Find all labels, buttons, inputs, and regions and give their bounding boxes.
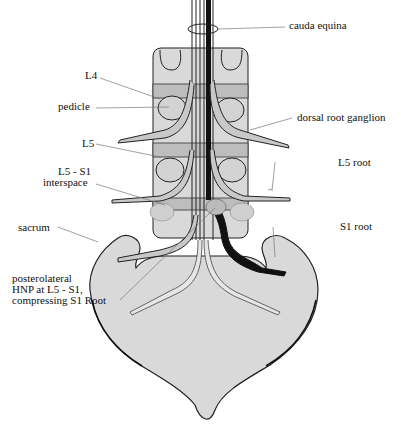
label-l5: L5 [82, 138, 94, 149]
label-dorsal-root-ganglion: dorsal root ganglion [297, 112, 386, 123]
label-sacrum: sacrum [18, 222, 50, 233]
label-interspace: interspace [43, 177, 88, 188]
pedicle-left-l5 [156, 158, 184, 182]
label-l5-root: L5 root [338, 157, 371, 168]
sacrum-shape [90, 236, 318, 419]
spine-diagram: cauda equina L4 pedicle dorsal root gang… [0, 0, 401, 429]
label-pedicle: pedicle [58, 101, 90, 112]
spine-illustration [0, 0, 401, 429]
label-hnp-line3: compressing S1 Root [12, 295, 106, 306]
label-l4: L4 [85, 70, 97, 81]
herniated-disc [206, 199, 226, 215]
label-s1-root: S1 root [340, 221, 372, 232]
label-cauda-equina: cauda equina [289, 20, 347, 31]
pedicle-right-l5 [218, 158, 246, 182]
